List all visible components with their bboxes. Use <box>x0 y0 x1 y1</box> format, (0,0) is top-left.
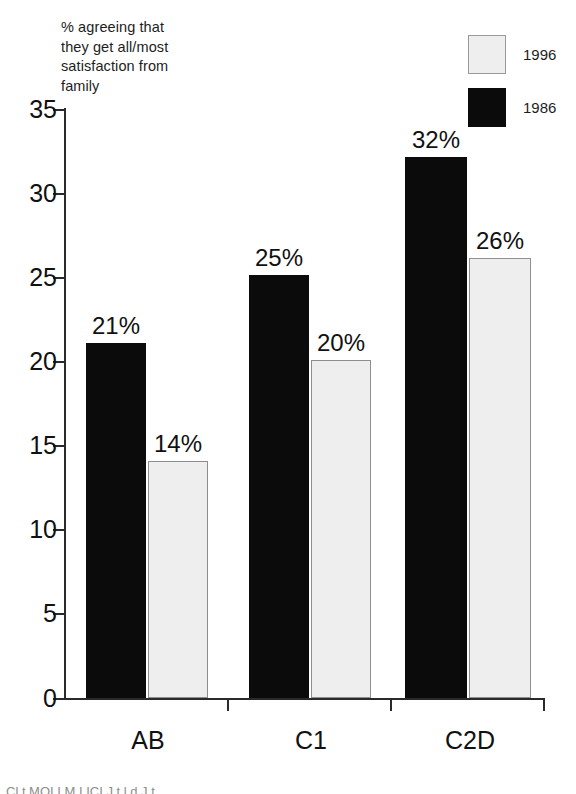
x-tick-2 <box>390 698 392 711</box>
chart-title-line-3: satisfaction from <box>61 57 241 77</box>
bar-ab-1986[interactable]: 21% <box>86 343 146 698</box>
cropped-footer-text: Cl t MOI I M I ICI J t l d J t <box>0 784 576 794</box>
y-tick-label-20: 20 <box>29 349 57 374</box>
bar-c2d-1986[interactable]: 32% <box>405 157 467 698</box>
bar-ab-1996[interactable]: 14% <box>148 461 208 698</box>
chart-title-line-2: they get all/most <box>61 38 241 58</box>
legend-item-1996: 1996 <box>468 34 556 74</box>
y-tick-label-5: 5 <box>43 601 57 626</box>
bar-label-c1-1996: 20% <box>317 331 365 355</box>
y-tick-label-10: 10 <box>29 517 57 542</box>
y-tick-label-35: 35 <box>29 97 57 122</box>
chart-title-line-1: % agreeing that <box>61 18 241 38</box>
legend-label-1996: 1996 <box>523 46 556 63</box>
bar-label-c2d-1996: 26% <box>476 229 524 253</box>
bar-label-c1-1986: 25% <box>255 246 303 270</box>
x-tick-1 <box>227 698 229 711</box>
bar-c1-1996[interactable]: 20% <box>311 360 371 698</box>
bar-label-ab-1996: 14% <box>154 432 202 456</box>
x-axis-line <box>64 698 545 700</box>
bar-chart-figure: % agreeing that they get all/most satisf… <box>0 0 576 794</box>
y-tick-label-15: 15 <box>29 433 57 458</box>
chart-title: % agreeing that they get all/most satisf… <box>61 18 241 96</box>
y-tick-label-30: 30 <box>29 181 57 206</box>
x-category-label-ab: AB <box>131 728 164 753</box>
x-tick-3 <box>543 698 545 711</box>
plot-area: 35 30 25 20 15 10 5 0 <box>64 108 545 700</box>
y-tick-label-0: 0 <box>43 686 57 711</box>
bar-c2d-1996[interactable]: 26% <box>469 258 531 698</box>
y-tick-label-25: 25 <box>29 265 57 290</box>
x-category-label-c1: C1 <box>295 728 327 753</box>
legend-swatch-1996-icon <box>468 35 506 74</box>
x-category-label-c2d: C2D <box>445 728 495 753</box>
bar-label-c2d-1986: 32% <box>412 128 460 152</box>
chart-title-line-4: family <box>61 77 241 97</box>
bar-c1-1986[interactable]: 25% <box>249 275 309 698</box>
bar-label-ab-1986: 21% <box>92 314 140 338</box>
y-axis-line <box>64 108 66 700</box>
